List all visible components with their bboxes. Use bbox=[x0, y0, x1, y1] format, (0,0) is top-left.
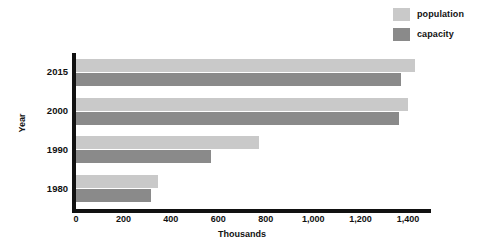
bar-capacity-2015 bbox=[76, 73, 401, 86]
x-tick-label: 400 bbox=[163, 214, 178, 224]
x-axis-tick-labels: 02004006008001,0001,2001,400 bbox=[76, 214, 408, 228]
legend-swatch-capacity bbox=[393, 28, 410, 41]
x-tick-label: 1,400 bbox=[397, 214, 420, 224]
bar-population-2000 bbox=[76, 98, 408, 111]
y-tick-label: 2000 bbox=[47, 105, 68, 116]
bar-chart: population capacity 2015200019901980 020… bbox=[0, 0, 487, 249]
x-tick-label: 800 bbox=[258, 214, 273, 224]
legend-label-capacity: capacity bbox=[417, 28, 454, 41]
y-tick-label: 1980 bbox=[47, 183, 68, 194]
bar-population-2015 bbox=[76, 59, 415, 72]
bar-capacity-1990 bbox=[76, 150, 211, 163]
y-axis-title: Year bbox=[17, 93, 27, 153]
x-tick-label: 600 bbox=[211, 214, 226, 224]
y-axis-tick-labels: 2015200019901980 bbox=[26, 53, 68, 208]
x-axis-title: Thousands bbox=[76, 229, 408, 239]
bar-capacity-2000 bbox=[76, 112, 399, 125]
y-tick-label: 1990 bbox=[47, 144, 68, 155]
legend-label-population: population bbox=[417, 8, 464, 21]
x-tick-label: 1,000 bbox=[302, 214, 325, 224]
x-tick-label: 0 bbox=[73, 214, 78, 224]
bar-population-1980 bbox=[76, 175, 158, 188]
x-axis-line bbox=[72, 209, 431, 213]
x-tick-label: 1,200 bbox=[349, 214, 372, 224]
legend-swatch-population bbox=[393, 8, 410, 21]
plot-area bbox=[76, 53, 408, 208]
legend-item-capacity: capacity bbox=[393, 28, 464, 41]
bar-capacity-1980 bbox=[76, 189, 151, 202]
legend-item-population: population bbox=[393, 8, 464, 21]
bar-population-1990 bbox=[76, 136, 259, 149]
x-tick-label: 200 bbox=[116, 214, 131, 224]
y-tick-label: 2015 bbox=[47, 66, 68, 77]
chart-legend: population capacity bbox=[393, 8, 464, 41]
